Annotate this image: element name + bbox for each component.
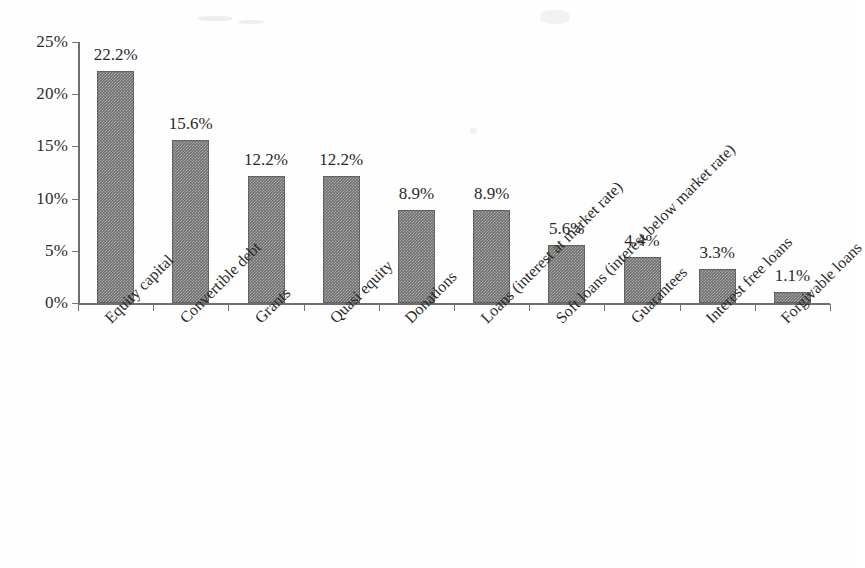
x-axis-tick (830, 304, 831, 311)
bar (323, 176, 360, 303)
y-axis-tick-label: 10% (0, 190, 78, 207)
scan-speck (540, 10, 570, 24)
x-axis-tick (755, 304, 756, 311)
y-axis-tick-label: 5% (0, 242, 78, 259)
x-axis-tick (228, 304, 229, 311)
y-axis-tick-label: 20% (0, 85, 78, 102)
x-axis-tick (304, 304, 305, 311)
x-axis-tick (153, 304, 154, 311)
y-axis-tick-label: 25% (0, 33, 78, 50)
bar-value-label: 22.2% (76, 46, 156, 63)
bar-value-label: 12.2% (226, 151, 306, 168)
y-axis-tick-label: 0% (0, 294, 78, 311)
x-axis-tick (680, 304, 681, 311)
bar-value-label: 12.2% (301, 151, 381, 168)
y-axis-tick-label: 15% (0, 137, 78, 154)
x-axis-tick (454, 304, 455, 311)
y-axis-line (78, 42, 80, 304)
x-axis-tick (529, 304, 530, 311)
bar-value-label: 3.3% (677, 244, 757, 261)
bar-value-label: 8.9% (452, 185, 532, 202)
x-axis-tick (78, 304, 79, 311)
bar (172, 140, 209, 303)
scan-speck (238, 20, 264, 24)
bar (97, 71, 134, 303)
bar-value-label: 15.6% (151, 115, 231, 132)
x-axis-tick (604, 304, 605, 311)
x-axis-tick (379, 304, 380, 311)
scan-speck (198, 16, 232, 21)
bar-value-label: 8.9% (376, 185, 456, 202)
